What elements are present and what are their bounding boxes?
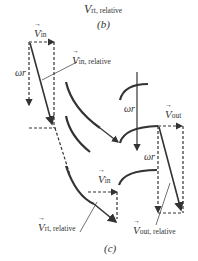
vector-symbol: V <box>72 55 79 66</box>
vector-symbol: V <box>133 225 140 236</box>
rotor-blade-1 <box>120 84 148 100</box>
v-rt-relative-leader <box>80 202 97 232</box>
v-out-relative-label: Vout, relative <box>133 225 176 236</box>
vector-symbol: V <box>38 222 45 233</box>
vector-subscript: in, relative <box>79 57 111 66</box>
v-in-bottom-label: Vin <box>98 174 111 185</box>
rotor-blade-3 <box>119 170 157 185</box>
blade-2 <box>66 116 90 152</box>
vector-symbol: V <box>98 174 105 185</box>
omega-r-right-label: ωr <box>144 152 155 162</box>
v-in-top-label: Vin <box>34 28 47 39</box>
vector-symbol: V <box>34 28 41 39</box>
panel-label-c: (c) <box>104 242 116 254</box>
v-out-label: Vout <box>165 109 181 120</box>
vector-subscript: in <box>41 30 47 39</box>
flow-arrow-mid <box>100 128 118 142</box>
vector-subscript: rt, relative <box>45 224 76 233</box>
v-out-relative-arrow <box>159 127 181 210</box>
vector-subscript: out <box>172 111 182 120</box>
v-in-relative-label: Vin, relative <box>72 55 111 66</box>
blade-3 <box>66 166 94 204</box>
v-rt-relative-label: Vrt, relative <box>38 222 76 233</box>
blade-1 <box>66 82 100 128</box>
vector-symbol: V <box>165 109 172 120</box>
vector-subscript: in <box>105 176 111 185</box>
rotor-blade-2 <box>120 126 158 143</box>
omega-r-mid-label: ωr <box>124 104 135 114</box>
omega-r-left-label: ωr <box>15 68 26 78</box>
velocity-diagram <box>0 0 198 261</box>
blade-3-flow <box>94 204 116 222</box>
v-in-relative-arrow <box>30 43 52 124</box>
vector-subscript: out, relative <box>140 227 176 236</box>
